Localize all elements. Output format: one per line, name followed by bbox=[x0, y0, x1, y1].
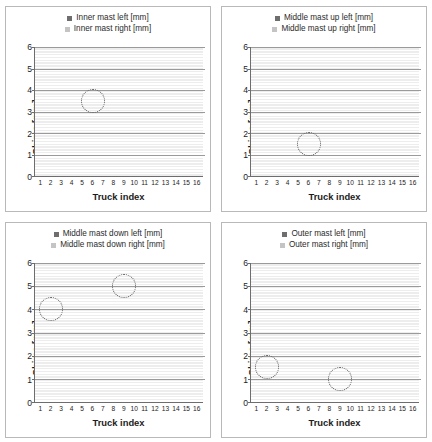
x-axis-label: Truck index bbox=[250, 417, 419, 428]
x-tick-label: 7 bbox=[98, 403, 108, 415]
x-tick-label: 15 bbox=[397, 403, 407, 415]
x-tick-label: 2 bbox=[261, 177, 271, 189]
plot-area: Shims [mm] 0123456 123456789101112131415… bbox=[222, 259, 426, 437]
y-tick-label: 6 bbox=[17, 258, 32, 268]
gridline bbox=[251, 112, 421, 113]
legend-item-left: Outer mast left [mm] bbox=[282, 229, 365, 239]
y-tick-label: 4 bbox=[17, 305, 32, 315]
x-tick-label: 1 bbox=[251, 177, 261, 189]
chart-panel-inner-mast: Inner mast left [mm] Inner mast right [m… bbox=[0, 0, 216, 216]
gridline bbox=[251, 90, 421, 91]
legend-swatch-left-icon bbox=[67, 16, 72, 21]
gridline bbox=[35, 263, 205, 264]
panel-frame: Outer mast left [mm] Outer mast right [m… bbox=[221, 222, 427, 438]
y-tick-label: 5 bbox=[17, 64, 32, 74]
gridline bbox=[35, 286, 205, 287]
x-tick-label: 11 bbox=[355, 177, 365, 189]
panel-frame: Inner mast left [mm] Inner mast right [m… bbox=[5, 6, 211, 212]
chart-panel-middle-mast-up: Middle mast up left [mm] Middle mast up … bbox=[216, 0, 432, 216]
y-tick-label: 0 bbox=[233, 398, 248, 408]
legend-item-left: Inner mast left [mm] bbox=[67, 13, 148, 23]
legend-label-right: Middle mast down right [mm] bbox=[60, 240, 165, 250]
x-tick-label: 15 bbox=[181, 177, 191, 189]
x-tick-label: 9 bbox=[335, 177, 345, 189]
gridline bbox=[35, 112, 205, 113]
x-tick-label: 8 bbox=[324, 403, 334, 415]
gridline bbox=[251, 309, 421, 310]
x-tick-label: 1 bbox=[251, 403, 261, 415]
panel-frame: Middle mast up left [mm] Middle mast up … bbox=[221, 6, 427, 212]
gridline bbox=[35, 90, 205, 91]
plot-canvas: 0123456 bbox=[250, 263, 419, 403]
chart-panel-outer-mast: Outer mast left [mm] Outer mast right [m… bbox=[216, 216, 432, 442]
y-axis-ticks: 0123456 bbox=[17, 47, 32, 177]
x-tick-label: 1 bbox=[35, 177, 45, 189]
y-tick-label: 5 bbox=[17, 281, 32, 291]
y-tick-label: 5 bbox=[233, 281, 248, 291]
y-tick-label: 2 bbox=[17, 129, 32, 139]
legend: Middle mast up left [mm] Middle mast up … bbox=[222, 13, 426, 34]
legend-item-right: Middle mast down right [mm] bbox=[51, 240, 165, 250]
plot-canvas: 0123456 bbox=[34, 47, 203, 177]
x-tick-label: 6 bbox=[303, 403, 313, 415]
legend-item-right: Inner mast right [mm] bbox=[65, 24, 151, 34]
legend-item-left: Middle mast down left [mm] bbox=[54, 229, 163, 239]
y-axis-ticks: 0123456 bbox=[17, 263, 32, 403]
chart-grid: Inner mast left [mm] Inner mast right [m… bbox=[0, 0, 432, 442]
x-tick-label: 2 bbox=[45, 403, 55, 415]
legend-swatch-right-icon bbox=[272, 27, 277, 32]
y-tick-label: 3 bbox=[233, 107, 248, 117]
legend-label-right: Inner mast right [mm] bbox=[74, 24, 151, 34]
x-tick-label: 7 bbox=[98, 177, 108, 189]
y-axis-ticks: 0123456 bbox=[233, 263, 248, 403]
y-tick-label: 3 bbox=[17, 107, 32, 117]
x-tick-label: 16 bbox=[408, 403, 418, 415]
x-tick-label: 16 bbox=[408, 177, 418, 189]
x-tick-label: 11 bbox=[139, 403, 149, 415]
x-tick-label: 13 bbox=[160, 403, 170, 415]
y-tick-label: 6 bbox=[233, 42, 248, 52]
gridline bbox=[35, 333, 205, 334]
y-tick-label: 0 bbox=[233, 172, 248, 182]
y-tick-label: 4 bbox=[233, 305, 248, 315]
legend-item-left: Middle mast up left [mm] bbox=[275, 13, 373, 23]
x-tick-label: 11 bbox=[139, 177, 149, 189]
legend-swatch-right-icon bbox=[280, 243, 285, 248]
gridline bbox=[35, 309, 205, 310]
x-tick-label: 6 bbox=[87, 403, 97, 415]
plot-area: Shims [mm] 0123456 123456789101112131415… bbox=[6, 259, 210, 437]
gridline bbox=[251, 379, 421, 380]
legend-label-left: Middle mast up left [mm] bbox=[284, 13, 373, 23]
x-tick-label: 10 bbox=[129, 177, 139, 189]
gridline bbox=[251, 133, 421, 134]
y-tick-label: 0 bbox=[17, 398, 32, 408]
x-tick-label: 1 bbox=[35, 403, 45, 415]
x-tick-label: 9 bbox=[119, 403, 129, 415]
gridline bbox=[35, 47, 205, 48]
x-tick-label: 3 bbox=[56, 403, 66, 415]
legend: Middle mast down left [mm] Middle mast d… bbox=[6, 229, 210, 250]
x-tick-label: 16 bbox=[192, 177, 202, 189]
gridline bbox=[251, 356, 421, 357]
legend-swatch-right-icon bbox=[65, 27, 70, 32]
x-tick-label: 2 bbox=[261, 403, 271, 415]
legend-label-left: Inner mast left [mm] bbox=[76, 13, 148, 23]
x-tick-label: 8 bbox=[108, 177, 118, 189]
x-tick-label: 4 bbox=[66, 177, 76, 189]
legend-item-right: Outer mast right [mm] bbox=[280, 240, 368, 250]
y-tick-label: 4 bbox=[233, 85, 248, 95]
x-tick-label: 5 bbox=[293, 177, 303, 189]
plot-box bbox=[34, 47, 203, 177]
x-tick-label: 9 bbox=[335, 403, 345, 415]
x-tick-label: 14 bbox=[171, 403, 181, 415]
x-tick-label: 13 bbox=[376, 177, 386, 189]
y-tick-label: 6 bbox=[233, 258, 248, 268]
y-tick-label: 2 bbox=[233, 351, 248, 361]
x-tick-label: 3 bbox=[272, 403, 282, 415]
x-tick-label: 4 bbox=[282, 403, 292, 415]
x-tick-label: 12 bbox=[366, 403, 376, 415]
y-tick-label: 2 bbox=[233, 129, 248, 139]
y-tick-label: 3 bbox=[17, 328, 32, 338]
plot-canvas: 0123456 bbox=[34, 263, 203, 403]
legend-swatch-left-icon bbox=[54, 232, 59, 237]
